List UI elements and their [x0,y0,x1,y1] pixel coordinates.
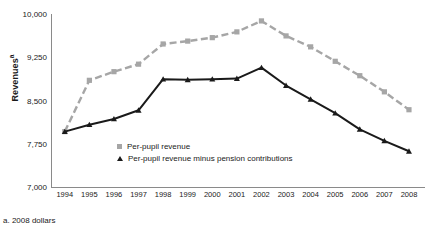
chart-figure: Revenuesa 7,0007,7508,5009,25010,000 199… [0,0,428,235]
data-point-square [210,35,215,40]
data-point-square [357,73,362,78]
data-point-square [308,44,313,49]
data-point-square [87,78,92,83]
legend-label-per-pupil-revenue: Per-pupil revenue [127,142,190,151]
legend-label-per-pupil-revenue-minus-pension: Per-pupil revenue minus pension contribu… [128,154,293,163]
chart-legend: Per-pupil revenue Per-pupil revenue minu… [117,141,293,165]
data-point-square [382,89,387,94]
data-point-square [111,69,116,74]
square-marker-icon [117,144,122,149]
data-point-triangle [258,65,264,70]
data-point-square [406,107,411,112]
legend-item-per-pupil-revenue-minus-pension: Per-pupil revenue minus pension contribu… [117,153,293,164]
data-point-square [333,59,338,64]
data-point-square [259,18,264,23]
series-lines [0,0,428,200]
legend-item-per-pupil-revenue: Per-pupil revenue [117,141,293,152]
data-point-square [234,29,239,34]
data-point-square [161,41,166,46]
data-point-square [283,33,288,38]
triangle-marker-icon [117,156,123,161]
figure-footnote: a. 2008 dollars [3,216,55,225]
data-point-square [185,39,190,44]
data-point-square [136,62,141,67]
chart-plot-area: Revenuesa 7,0007,7508,5009,25010,000 199… [0,0,428,200]
